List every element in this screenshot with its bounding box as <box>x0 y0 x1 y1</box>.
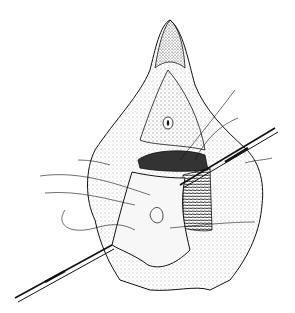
illustration-canvas <box>0 0 295 313</box>
instrument-left <box>15 245 114 302</box>
surgical-illustration <box>0 0 295 313</box>
